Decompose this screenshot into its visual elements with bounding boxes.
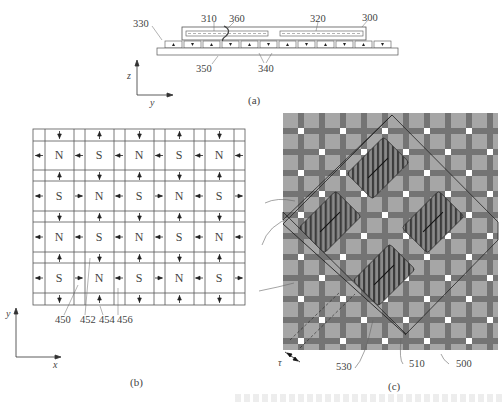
panel-c-drawing [0,0,504,404]
label-510: 510 [409,358,425,369]
label-500: 500 [456,358,472,369]
caption-c: (c) [388,380,400,392]
label-530: 530 [336,361,352,372]
pitch-tau-label: τ [278,357,282,368]
bleed-through-text [235,394,504,402]
